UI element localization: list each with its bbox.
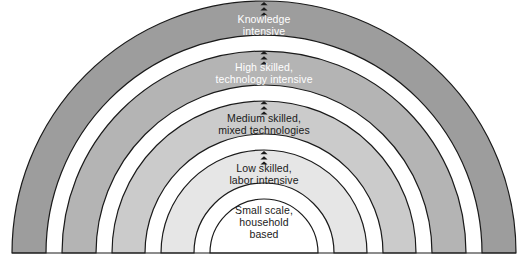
arch-diagram: Knowledge intensive High skilled, techno… xyxy=(0,0,528,262)
arch-diagram-svg xyxy=(0,0,528,262)
band-small-scale xyxy=(210,199,318,253)
bands-group xyxy=(12,1,516,253)
